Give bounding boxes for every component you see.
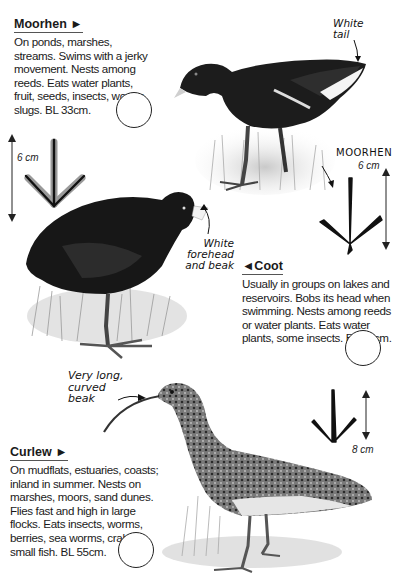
white-tail-arrow-icon <box>352 40 364 64</box>
white-tail-label: White tail <box>333 18 373 40</box>
coot-footprint-size: 6 cm <box>17 152 39 163</box>
moorhen-title: Moorhen ► <box>14 17 83 33</box>
moorhen-tick-circle[interactable] <box>116 92 152 128</box>
white-forehead-label: White forehead and beak <box>172 238 234 271</box>
curlew-title: Curlew ► <box>10 445 68 461</box>
curlew-footprint-icon <box>306 386 386 446</box>
moorhen-footprint-label: MOORHEN <box>336 147 392 158</box>
white-forehead-arrow-icon <box>198 204 214 238</box>
moorhen-footprint-icon <box>318 164 390 250</box>
coot-illustration <box>22 186 212 366</box>
coot-title: ◄Coot <box>242 259 283 275</box>
curlew-footprint-size: 8 cm <box>352 444 374 455</box>
coot-tick-circle[interactable] <box>345 330 381 366</box>
curlew-tick-circle[interactable] <box>118 532 154 568</box>
